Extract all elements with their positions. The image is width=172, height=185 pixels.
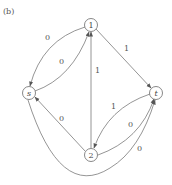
edge-1-to-t — [96, 29, 151, 88]
edge-label-s-1: 0 — [59, 57, 64, 66]
edge-label-1-t: 1 — [124, 44, 129, 53]
edge-label-2-t: 0 — [128, 120, 133, 129]
edge-label-2-1: 1 — [95, 66, 100, 75]
node-1: 1 — [85, 19, 98, 32]
edge-label-2-s: 0 — [59, 114, 64, 123]
node-2: 2 — [85, 149, 98, 162]
edge-s-to-t — [28, 100, 155, 176]
edge-2-to-s — [35, 97, 85, 151]
panel-label: (b) — [3, 7, 14, 16]
edge-2-to-t — [98, 99, 154, 155]
node-1-label: 1 — [88, 21, 93, 30]
edge-label-s-t: 0 — [137, 144, 142, 153]
node-t: t — [150, 87, 163, 100]
edge-label-1-s: 0 — [45, 33, 50, 42]
edge-t-to-2 — [94, 94, 150, 148]
node-s: s — [23, 87, 36, 100]
flow-network-diagram: (b) 0 0 1 1 0 1 0 0 1 2 s t — [0, 0, 172, 185]
edge-label-t-2: 1 — [111, 102, 116, 111]
node-2-label: 2 — [88, 151, 93, 160]
node-s-label: s — [27, 89, 31, 98]
